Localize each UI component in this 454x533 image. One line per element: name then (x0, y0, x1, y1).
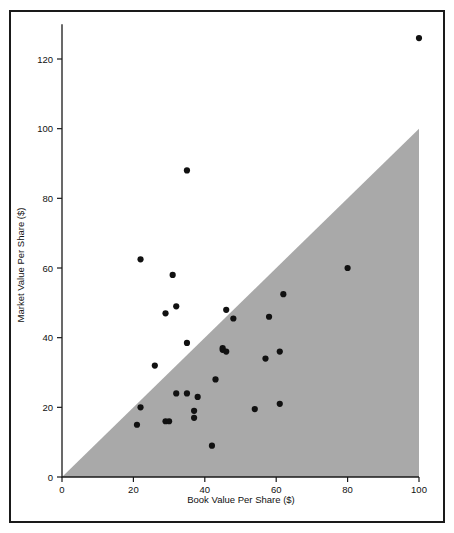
data-point (162, 310, 168, 316)
x-tick-label: 100 (411, 484, 427, 495)
y-tick-label: 0 (48, 472, 53, 483)
data-point (166, 418, 172, 424)
data-point (152, 362, 158, 368)
data-point (173, 303, 179, 309)
data-point (184, 390, 190, 396)
x-tick-label: 0 (59, 484, 64, 495)
data-point (184, 167, 190, 173)
y-tick-label: 20 (42, 402, 53, 413)
data-point (195, 394, 201, 400)
x-tick-label: 20 (128, 484, 139, 495)
scatter-plot: 020406080100 020406080100120 Book Value … (0, 0, 454, 533)
data-point (137, 404, 143, 410)
data-point (209, 443, 215, 449)
data-point (266, 314, 272, 320)
chart-figure: 020406080100 020406080100120 Book Value … (0, 0, 454, 533)
data-point (223, 307, 229, 313)
y-tick-labels-group: 020406080100120 (37, 54, 53, 483)
market-below-book-region (62, 129, 419, 477)
shaded-region-group (62, 129, 419, 477)
data-point (212, 376, 218, 382)
data-point (173, 390, 179, 396)
data-point (184, 340, 190, 346)
data-point (191, 415, 197, 421)
data-point (345, 265, 351, 271)
y-tick-label: 60 (42, 263, 53, 274)
data-point (223, 349, 229, 355)
data-point (277, 349, 283, 355)
data-point (170, 272, 176, 278)
data-point (252, 406, 258, 412)
y-tick-label: 120 (37, 54, 53, 65)
data-point (280, 291, 286, 297)
data-point (137, 256, 143, 262)
data-point (230, 315, 236, 321)
data-point (191, 408, 197, 414)
y-tick-label: 40 (42, 332, 53, 343)
y-tick-label: 100 (37, 123, 53, 134)
x-axis-title: Book Value Per Share ($) (187, 494, 295, 505)
data-point (134, 422, 140, 428)
data-point (416, 35, 422, 41)
y-tick-label: 80 (42, 193, 53, 204)
data-point (262, 355, 268, 361)
y-axis-title: Market Value Per Share ($) (15, 208, 26, 323)
data-point (277, 401, 283, 407)
x-tick-label: 80 (342, 484, 353, 495)
